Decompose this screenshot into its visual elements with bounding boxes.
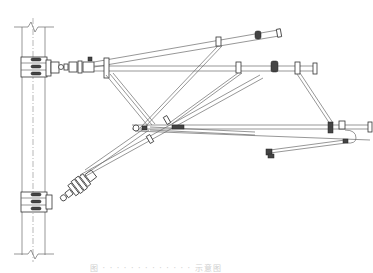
figure-caption: 图 · · · · · · · · · · · · · 示意图 xyxy=(90,262,310,273)
horizontal-tube xyxy=(94,58,317,78)
pole xyxy=(14,18,54,262)
inclined-insulator xyxy=(56,168,98,206)
cantilever-drawing xyxy=(0,0,373,273)
diagonal-brace xyxy=(106,46,333,128)
upper-pole-bracket xyxy=(21,57,51,77)
lower-pole-bracket xyxy=(21,192,52,212)
steady-arm xyxy=(266,130,356,158)
horizontal-insulator xyxy=(51,57,94,73)
upper-inclined-tube xyxy=(94,29,282,67)
